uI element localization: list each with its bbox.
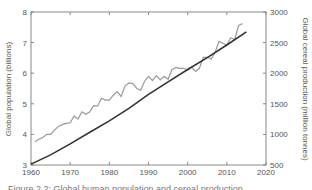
left-y-tick-label: 7	[23, 39, 28, 48]
left-y-tick-label: 4	[23, 130, 28, 139]
x-tick-label: 2010	[218, 168, 236, 177]
left-y-tick-label: 5	[23, 100, 28, 109]
x-tick-label: 2000	[179, 168, 197, 177]
right-y-axis-title: Global cereal production (million tonnes…	[301, 17, 310, 161]
right-y-tick-label: 1500	[270, 100, 288, 109]
right-y-tick-label: 3000	[270, 8, 288, 17]
left-y-axis-title: Global population (billions)	[4, 42, 13, 137]
dual-axis-line-chart: 1960197019801990200020102020 345678 5001…	[0, 0, 312, 190]
left-y-tick-label: 6	[23, 69, 28, 78]
right-y-tick-label: 2000	[270, 69, 288, 78]
right-y-tick-label: 1000	[270, 130, 288, 139]
cereal-production-line	[35, 24, 243, 142]
population-line	[31, 32, 246, 164]
plot-frame	[31, 12, 266, 165]
right-y-tick-label: 2500	[270, 39, 288, 48]
figure-caption: Figure 2.2: Global human population and …	[8, 184, 243, 190]
left-y-axis-ticks: 345678	[23, 8, 34, 170]
x-tick-label: 1990	[140, 168, 158, 177]
left-y-tick-label: 8	[23, 8, 28, 17]
right-y-axis-ticks: 50010001500200025003000	[263, 8, 288, 170]
left-y-tick-label: 3	[23, 161, 28, 170]
x-tick-label: 1970	[61, 168, 79, 177]
right-y-tick-label: 500	[270, 161, 284, 170]
x-tick-label: 1980	[100, 168, 118, 177]
